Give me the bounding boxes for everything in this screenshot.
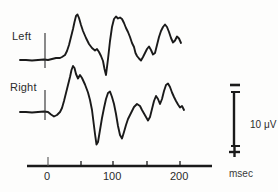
waveform-left-path (20, 15, 181, 76)
trace-left (20, 15, 181, 76)
x-axis-unit-label: msec (229, 168, 253, 179)
x-tick-label-200: 200 (170, 170, 188, 182)
trace-right (20, 66, 184, 145)
amplitude-scale-bar (229, 85, 240, 157)
trace-label-left: Left (12, 30, 31, 42)
x-tick-label-100: 100 (103, 170, 121, 182)
x-axis (27, 157, 212, 166)
trace-label-right: Right (10, 81, 37, 93)
scale-bar-label: 10 μV (250, 119, 276, 130)
x-tick-label-0: 0 (44, 170, 50, 182)
evoked-potential-chart (0, 0, 278, 192)
